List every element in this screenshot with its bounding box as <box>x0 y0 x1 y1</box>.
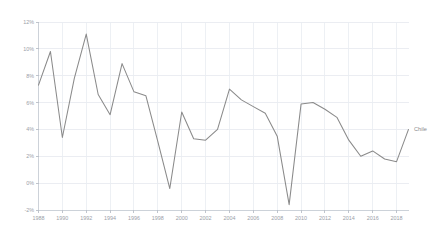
y-axis-tick-label: 12% <box>23 19 34 25</box>
y-axis-tick-label: -2% <box>24 207 34 213</box>
x-axis-tick-label: 2002 <box>200 215 212 221</box>
x-axis-tick-label: 1994 <box>104 215 116 221</box>
series-inline-label: Chile <box>414 126 427 132</box>
vertical-gridlines <box>39 22 397 210</box>
x-axis-tick-label: 2012 <box>319 215 331 221</box>
line-chart: 12%10%8%6%4%2%0%-2% 19881990199219941996… <box>0 0 444 235</box>
y-axis-tick-label: 6% <box>26 100 34 106</box>
x-axis-tick-label: 1988 <box>33 215 45 221</box>
horizontal-gridlines <box>39 22 409 210</box>
x-axis-tick-label: 2018 <box>391 215 403 221</box>
x-axis-tick-label: 1996 <box>128 215 140 221</box>
x-axis-tick-labels: 1988199019921994199619982000200220042006… <box>33 215 403 221</box>
x-axis-tick-label: 2016 <box>367 215 379 221</box>
x-axis-tick-label: 1990 <box>56 215 68 221</box>
axes <box>39 22 409 210</box>
y-axis-tick-labels: 12%10%8%6%4%2%0%-2% <box>23 19 34 213</box>
y-axis-tick-label: 10% <box>23 46 34 52</box>
series-line-chile <box>39 34 409 205</box>
y-axis-tick-label: 4% <box>26 126 34 132</box>
x-axis-tick-label: 2008 <box>271 215 283 221</box>
y-axis-tick-label: 8% <box>26 73 34 79</box>
x-axis-tick-label: 2014 <box>343 215 355 221</box>
x-axis-tick-label: 1998 <box>152 215 164 221</box>
x-axis-tick-label: 2000 <box>176 215 188 221</box>
data-series-group <box>39 34 409 205</box>
x-axis-tick-label: 2006 <box>247 215 259 221</box>
x-axis-tick-label: 2004 <box>223 215 235 221</box>
y-axis-tick-label: 0% <box>26 180 34 186</box>
chart-container: 12%10%8%6%4%2%0%-2% 19881990199219941996… <box>0 0 444 235</box>
y-axis-tick-label: 2% <box>26 153 34 159</box>
x-axis-tick-label: 1992 <box>80 215 92 221</box>
series-label-chile: Chile <box>414 126 427 132</box>
x-axis-tick-label: 2010 <box>295 215 307 221</box>
